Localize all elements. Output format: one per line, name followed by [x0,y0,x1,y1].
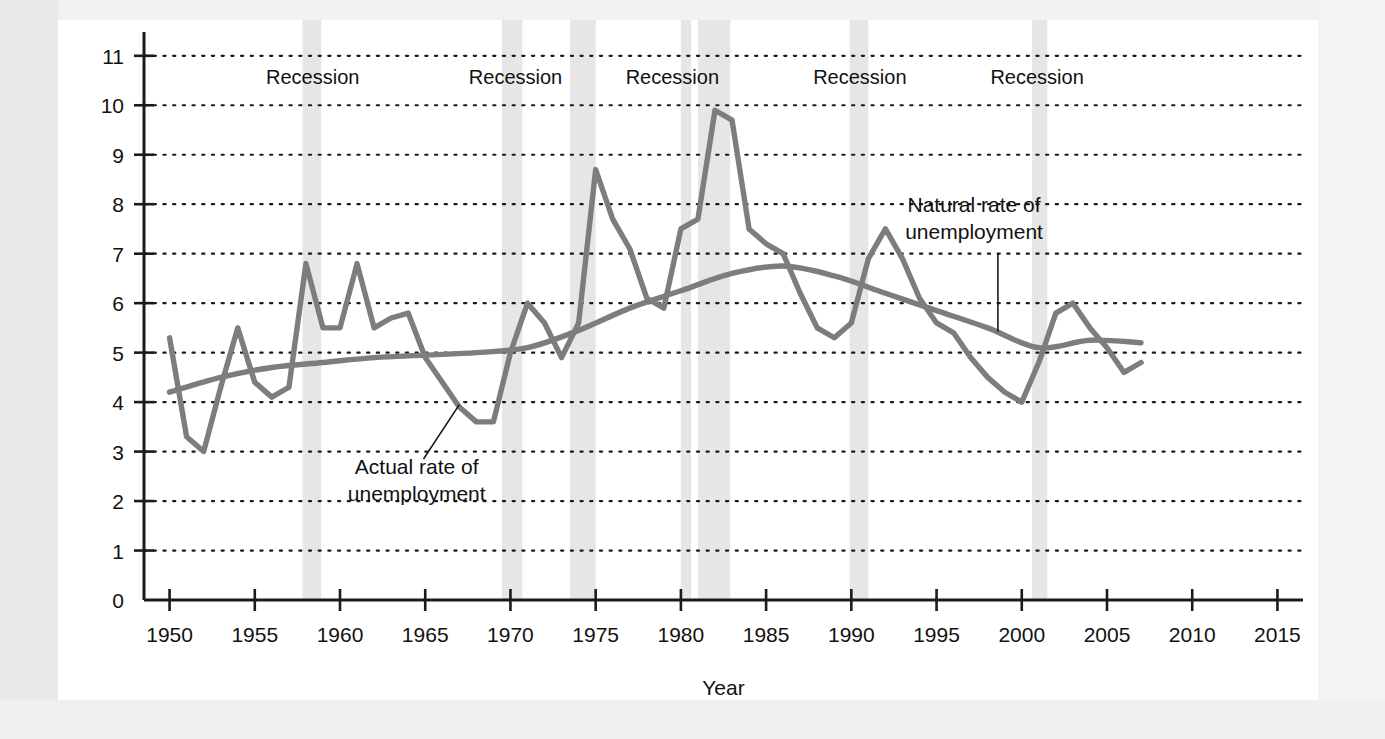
x-tick-label: 1995 [913,623,960,646]
natural-rate-annotation: Natural rate ofunemployment [905,193,1043,243]
recession-band [502,20,522,600]
recession-label: Recession [469,66,562,88]
annotation-line: unemployment [348,482,486,505]
x-axis-title: Year [702,676,744,699]
y-tick-label: 11 [102,45,124,68]
annotation-line: unemployment [905,220,1043,243]
recession-label: Recession [813,66,906,88]
page-backdrop-left [0,0,58,739]
recession-band [1032,20,1047,600]
x-tick-label: 2015 [1254,623,1301,646]
y-tick-label: 4 [112,391,124,414]
recession-label: Recession [990,66,1083,88]
page-backdrop-right [1318,0,1385,739]
figure-card: 01234567891011 1950195519601965197019751… [58,20,1318,700]
page-backdrop-bottom [0,700,1385,739]
y-tick-label: 2 [112,490,124,513]
y-tick-label: 3 [112,441,124,464]
annotation-line: Actual rate of [355,455,479,478]
recession-band [570,20,596,600]
y-tick-label: 1 [112,540,124,563]
x-tick-label: 2010 [1169,623,1216,646]
x-tick-label: 1990 [828,623,875,646]
y-tick-label: 5 [112,342,124,365]
recession-band [698,20,730,600]
x-tick-label: 1980 [658,623,705,646]
figure-page: 01234567891011 1950195519601965197019751… [0,0,1385,739]
page-backdrop-top [0,0,1385,20]
y-tick-label: 7 [112,243,124,266]
y-tick-label: 0 [112,589,124,612]
x-tick-label: 1965 [402,623,449,646]
x-tick-label: 2005 [1084,623,1131,646]
series-annotations: Actual rate ofunemploymentNatural rate o… [348,193,1043,505]
y-axis-ticks: 01234567891011 [101,45,154,612]
recession-label: Recession [266,66,359,88]
recession-label: Recession [626,66,719,88]
x-tick-label: 2000 [998,623,1045,646]
x-tick-label: 1970 [487,623,534,646]
unemployment-line-chart: 01234567891011 1950195519601965197019751… [58,20,1318,700]
x-tick-label: 1950 [146,623,193,646]
x-tick-label: 1955 [231,623,278,646]
recession-text-labels: RecessionRecessionRecessionRecessionRece… [266,66,1084,88]
y-tick-label: 6 [112,292,124,315]
y-tick-label: 10 [101,94,124,117]
annotation-line: Natural rate of [908,193,1041,216]
recession-band [681,20,691,600]
x-tick-label: 1985 [743,623,790,646]
x-tick-label: 1975 [572,623,619,646]
x-tick-label: 1960 [317,623,364,646]
axis-titles: Year [702,676,744,699]
y-tick-label: 9 [112,144,124,167]
y-tick-label: 8 [112,193,124,216]
actual-rate-annotation: Actual rate ofunemployment [348,455,486,505]
